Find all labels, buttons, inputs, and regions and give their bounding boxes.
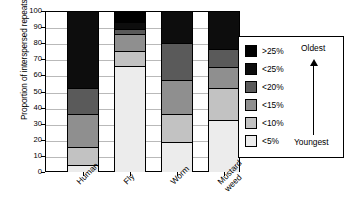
legend-item: >25% <box>245 44 284 57</box>
y-tick-label: 10 <box>20 152 42 160</box>
bar-segment <box>115 11 145 22</box>
y-tick-label: 90 <box>20 23 42 31</box>
bar-segment <box>115 51 145 65</box>
bar-human <box>67 11 99 172</box>
legend-item: <5% <box>245 134 279 147</box>
up-arrow-icon <box>310 59 318 66</box>
legend-box: >25%<25%<20%<15%<10%<5% Oldest Youngest <box>238 36 344 158</box>
legend-swatch <box>245 45 257 57</box>
bar-fly <box>114 11 146 172</box>
bar-segment <box>162 43 192 80</box>
legend-label: >25% <box>262 46 284 56</box>
bar-segment <box>115 34 145 52</box>
y-tick-label: 40 <box>20 104 42 112</box>
y-tick-label: 30 <box>20 120 42 128</box>
legend-label: <25% <box>262 64 284 74</box>
y-tick-label: 70 <box>20 55 42 63</box>
bar-segment <box>209 49 239 68</box>
x-axis-label: Fly <box>122 172 137 187</box>
chart-figure: Proportion of interspersed repeats (%) 0… <box>0 0 347 219</box>
bar-segment <box>209 11 239 49</box>
bar-segment <box>68 114 98 147</box>
legend-item: <25% <box>245 62 284 75</box>
legend-label: <5% <box>262 136 279 146</box>
legend-label: <10% <box>262 118 284 128</box>
bar-segment <box>68 88 98 114</box>
y-tick-label: 50 <box>20 88 42 96</box>
y-tick-label: 60 <box>20 71 42 79</box>
legend-swatch <box>245 81 257 93</box>
bar-segment <box>115 66 145 172</box>
legend-item: <10% <box>245 116 284 129</box>
legend-swatch <box>245 135 257 147</box>
legend-swatch <box>245 99 257 111</box>
y-tick-label: 100 <box>20 7 42 15</box>
legend-swatch <box>245 63 257 75</box>
arrow-shaft <box>313 65 314 135</box>
y-tick-label: 0 <box>20 168 42 176</box>
bar-segment <box>162 80 192 114</box>
bar-segment <box>68 11 98 88</box>
legend-item: <15% <box>245 98 284 111</box>
legend-swatch <box>245 117 257 129</box>
legend-label: <20% <box>262 82 284 92</box>
y-tick-label: 20 <box>20 136 42 144</box>
bar-segment <box>162 11 192 43</box>
bar-worm <box>161 11 193 172</box>
bar-segment <box>209 88 239 120</box>
bar-segment <box>115 22 145 28</box>
bar-segment <box>209 67 239 88</box>
legend-youngest-label: Youngest <box>294 137 329 147</box>
bar-mustard-weed <box>208 11 240 172</box>
legend-oldest-label: Oldest <box>301 43 325 53</box>
y-tick-label: 80 <box>20 39 42 47</box>
legend-item: <20% <box>245 80 284 93</box>
bar-segment <box>115 29 145 34</box>
bar-segment <box>162 114 192 142</box>
legend-label: <15% <box>262 100 284 110</box>
y-axis-title: Proportion of interspersed repeats (%) <box>20 0 29 133</box>
